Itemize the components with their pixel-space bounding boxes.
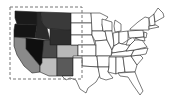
state-iowa[interactable] <box>92 31 107 41</box>
state-maine[interactable] <box>154 8 164 22</box>
state-washington[interactable] <box>15 11 37 25</box>
state-mississippi[interactable] <box>108 57 116 74</box>
state-massachusetts[interactable] <box>149 25 159 29</box>
state-oregon[interactable] <box>14 24 37 38</box>
state-florida[interactable] <box>118 72 143 95</box>
state-new-jersey[interactable] <box>144 32 147 38</box>
state-new-york[interactable] <box>130 17 149 30</box>
state-pennsylvania[interactable] <box>128 30 144 38</box>
state-arkansas[interactable] <box>97 56 110 67</box>
state-michigan[interactable] <box>114 20 121 32</box>
state-ohio[interactable] <box>119 31 128 44</box>
state-nebraska[interactable] <box>71 35 95 45</box>
western-states <box>14 11 78 76</box>
state-kansas[interactable] <box>78 45 96 56</box>
state-wyoming[interactable] <box>50 29 71 45</box>
state-new-mexico[interactable] <box>57 58 73 76</box>
us-map <box>0 0 187 103</box>
state-arizona[interactable] <box>40 58 57 76</box>
state-wisconsin[interactable] <box>102 19 112 31</box>
state-south-dakota[interactable] <box>71 23 92 35</box>
